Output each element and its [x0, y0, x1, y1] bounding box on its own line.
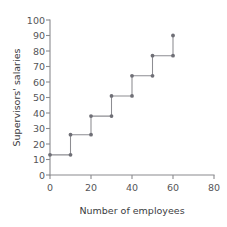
x-tick-label: 40 — [126, 182, 138, 193]
x-axis-title: Number of employees — [79, 205, 184, 216]
data-point — [130, 74, 134, 78]
step-chart: 100 90 80 70 60 50 40 30 20 10 0 — [0, 0, 227, 227]
data-point — [69, 133, 73, 137]
x-tick-label: 20 — [85, 182, 97, 193]
y-tick-label: 70 — [33, 61, 45, 72]
y-axis-tick-labels: 100 90 80 70 60 50 40 30 20 10 0 — [27, 15, 45, 181]
data-point — [151, 74, 155, 78]
data-point — [89, 133, 93, 137]
x-tick-label: 60 — [167, 182, 179, 193]
y-tick-label: 0 — [39, 170, 45, 181]
y-axis-title: Supervisors' salaries — [11, 48, 22, 146]
y-tick-label: 20 — [33, 139, 45, 150]
x-tick-label: 80 — [208, 182, 220, 193]
data-point — [151, 54, 155, 58]
y-tick-label: 30 — [33, 123, 45, 134]
x-axis-ticks — [50, 175, 214, 179]
chart-container: 100 90 80 70 60 50 40 30 20 10 0 — [0, 0, 227, 227]
y-tick-label: 40 — [33, 108, 45, 119]
y-tick-label: 50 — [33, 92, 45, 103]
y-tick-label: 100 — [27, 15, 45, 26]
data-point — [48, 153, 52, 157]
data-point — [130, 94, 134, 98]
x-axis-tick-labels: 0 20 40 60 80 — [47, 182, 220, 193]
y-axis-ticks — [46, 20, 50, 175]
data-point — [69, 153, 73, 157]
step-series-markers — [48, 34, 175, 157]
y-tick-label: 90 — [33, 30, 45, 41]
data-point — [171, 54, 175, 58]
data-point — [110, 114, 114, 118]
data-point — [89, 114, 93, 118]
y-tick-label: 80 — [33, 46, 45, 57]
y-tick-label: 10 — [33, 154, 45, 165]
x-tick-label: 0 — [47, 182, 53, 193]
data-point — [110, 94, 114, 98]
data-point — [171, 34, 175, 38]
y-tick-label: 60 — [33, 77, 45, 88]
